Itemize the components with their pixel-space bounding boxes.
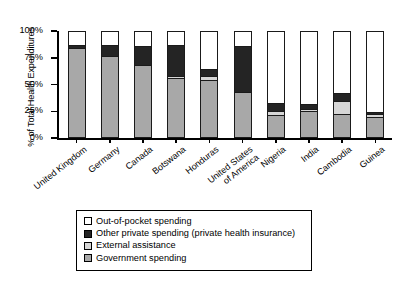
legend-item: External assistance (84, 240, 305, 252)
y-axis-tick-label: 0% (30, 133, 43, 142)
bar-segment (69, 48, 85, 137)
legend-label: Out-of-pocket spending (96, 217, 192, 226)
bar-segment (69, 32, 85, 45)
bar-segment (168, 45, 184, 77)
bar-botswana (167, 31, 185, 138)
x-axis-tick (109, 138, 111, 143)
bar-segment (334, 93, 350, 101)
x-axis-label: Botswana (151, 145, 188, 177)
legend-swatch (84, 242, 92, 250)
bar-segment (334, 101, 350, 114)
chart-legend: Out-of-pocket spendingOther private spen… (76, 210, 312, 271)
bar-nigeria (267, 31, 285, 138)
y-axis-tick-label: 25% (25, 107, 43, 116)
bar-segment (102, 56, 118, 137)
x-axis-tick (308, 138, 310, 143)
bar-segment (201, 69, 217, 76)
bar-cambodia (333, 31, 351, 138)
x-axis-tick (175, 138, 177, 143)
bar-guinea (366, 31, 384, 138)
bar-segment (268, 32, 284, 103)
x-axis-tick (142, 138, 144, 143)
bar-segment (301, 32, 317, 104)
legend-item: Government spending (84, 252, 305, 264)
bar-segment (268, 115, 284, 137)
x-axis-label: Guinea (359, 145, 388, 170)
y-axis-tick: 50% (51, 84, 57, 86)
plot-area: 0%25%50%75%100% United KingdomGermanyCan… (60, 31, 392, 138)
legend-swatch (84, 254, 92, 262)
bar-segment (334, 32, 350, 93)
bar-united-states-of-america (234, 31, 252, 138)
x-axis-tick (76, 138, 78, 143)
bar-segment (135, 46, 151, 65)
y-axis-tick: 100% (51, 30, 57, 32)
x-axis-tick (209, 138, 211, 143)
legend-label: Government spending (96, 254, 186, 263)
x-axis-tick (242, 138, 244, 143)
bar-segment (168, 32, 184, 45)
y-axis-tick-label: 100% (20, 26, 44, 35)
bar-segment (102, 45, 118, 57)
bar-segment (102, 32, 118, 45)
bar-segment (367, 117, 383, 137)
x-axis-label: Germany (87, 145, 122, 175)
x-axis-label: Nigeria (259, 145, 287, 170)
bar-segment (334, 114, 350, 137)
legend-swatch (84, 230, 92, 238)
y-axis-line (57, 31, 59, 138)
x-axis-label: United Kingdom (32, 145, 88, 192)
x-axis-tick (375, 138, 377, 143)
bar-segment (235, 92, 251, 137)
y-axis-tick: 75% (51, 57, 57, 59)
bar-segment (235, 32, 251, 46)
legend-label: External assistance (96, 241, 176, 250)
bar-segment (201, 80, 217, 137)
bar-canada (134, 31, 152, 138)
bar-segment (268, 103, 284, 110)
bar-germany (101, 31, 119, 138)
y-axis-tick-label: 75% (25, 53, 43, 62)
bar-segment (135, 32, 151, 46)
bar-united-kingdom (68, 31, 86, 138)
legend-item: Out-of-pocket spending (84, 215, 305, 227)
y-axis-tick: 25% (51, 111, 57, 113)
bar-segment (301, 111, 317, 137)
bar-honduras (200, 31, 218, 138)
y-axis-tick-label: 50% (25, 80, 43, 89)
bar-segment (201, 32, 217, 69)
x-axis-label: India (300, 145, 321, 165)
bar-segment (135, 65, 151, 137)
legend-label: Other private spending (private health i… (96, 229, 295, 238)
stacked-bar-chart-figure: % of Total Health Expenditures 0%25%50%7… (0, 0, 420, 284)
x-axis-label: Cambodia (316, 145, 354, 178)
y-axis-tick: 0% (51, 137, 57, 139)
bar-segment (367, 32, 383, 112)
bar-segment (235, 46, 251, 92)
bar-india (300, 31, 318, 138)
x-axis-tick (341, 138, 343, 143)
legend-swatch (84, 217, 92, 225)
x-axis-tick (275, 138, 277, 143)
legend-item: Other private spending (private health i… (84, 227, 305, 239)
bar-segment (168, 78, 184, 137)
